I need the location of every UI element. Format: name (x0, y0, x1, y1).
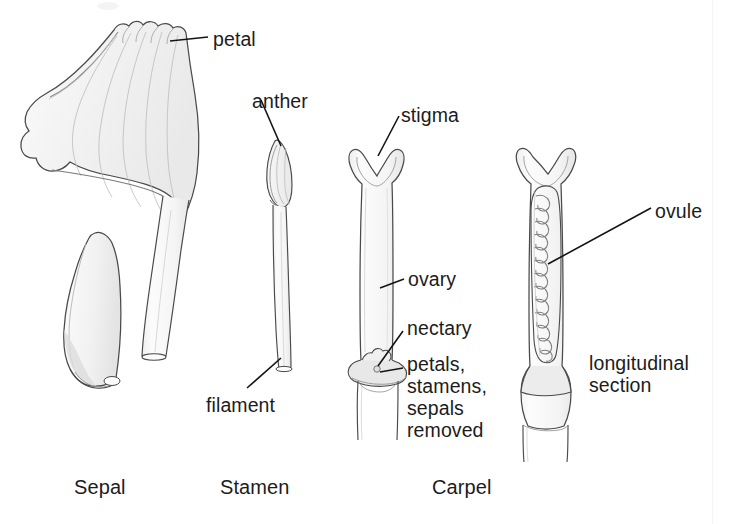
label-stigma: stigma (401, 104, 459, 126)
group-label-sepal: Sepal (74, 476, 126, 498)
leader-ovule (548, 208, 651, 264)
carpel-specimen (348, 149, 406, 440)
label-petal: petal (213, 28, 256, 50)
label-filament: filament (206, 394, 275, 416)
leader-filament (247, 358, 281, 388)
diagram-artwork (0, 0, 735, 524)
label-ovule: ovule (655, 200, 702, 222)
label-nectary: nectary (407, 317, 472, 339)
stamen-specimen (267, 140, 292, 371)
carpel-ls-specimen (516, 148, 575, 462)
label-ovary: ovary (408, 268, 456, 290)
label-longitudinal-section: longitudinal section (589, 352, 689, 396)
group-label-carpel: Carpel (432, 476, 492, 498)
sepal-specimen (64, 232, 121, 388)
label-removed-note: petals, stamens, sepals removed (407, 353, 487, 441)
group-label-stamen: Stamen (220, 476, 290, 498)
flower-parts-figure: petal anther stigma ovary nectary filame… (0, 0, 735, 524)
label-anther: anther (252, 90, 308, 112)
